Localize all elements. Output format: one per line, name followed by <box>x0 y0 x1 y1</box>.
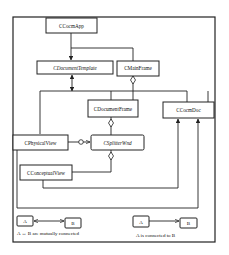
node-label-splitter-wnd: CSplitterWnd <box>103 140 132 146</box>
node-label-conceptual-view: CConceptualView <box>27 170 65 176</box>
node-splitter-wnd: CSplitterWnd <box>91 135 144 150</box>
legend-directed-caption: A is connected to B <box>136 233 176 238</box>
association-circle-icon <box>79 140 84 145</box>
node-label-doc: CCocmDoc <box>176 107 201 113</box>
class-diagram: CCocmApp CDocumentTemplate CMainFrame CD… <box>0 0 229 255</box>
connectors <box>17 33 208 208</box>
node-conceptual-view: CConceptualView <box>20 165 72 180</box>
node-app: CCocmApp <box>46 18 97 33</box>
node-label-physical-view: CPhysicalView <box>25 140 57 146</box>
node-label-document-frame: CDocumentFrame <box>94 106 133 112</box>
legend-directed: A B A is connected to B <box>133 216 197 238</box>
legend-directed-a: A <box>139 220 143 225</box>
aggregation-diamond-icon <box>131 76 136 84</box>
node-main-frame: CMainFrame <box>117 61 159 76</box>
legend-mutual-a: A <box>23 219 27 224</box>
aggregation-diamond-icon <box>109 152 114 160</box>
node-label-doc-template: CDocumentTemplate <box>53 65 97 71</box>
node-doc-template: CDocumentTemplate <box>37 61 113 74</box>
aggregation-diamond-icon <box>109 119 114 127</box>
legend-mutual-caption: A ↔ B are mutually connected <box>17 231 80 236</box>
legend-mutual: A B A ↔ B are mutually connected <box>17 216 81 236</box>
node-physical-view: CPhysicalView <box>13 135 68 150</box>
node-document-frame: CDocumentFrame <box>88 100 138 117</box>
node-label-app: CCocmApp <box>59 23 84 29</box>
node-doc: CCocmDoc <box>163 102 214 118</box>
node-label-main-frame: CMainFrame <box>124 65 152 71</box>
